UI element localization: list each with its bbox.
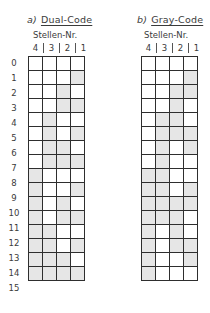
bit-cell-filled (142, 211, 156, 225)
code-row (142, 197, 198, 211)
bit-cell-filled (184, 85, 198, 99)
bit-cell-empty (184, 169, 198, 183)
bit-cell-filled (142, 197, 156, 211)
bit-cell-filled (43, 127, 57, 141)
digit-label: 2 (172, 43, 188, 53)
panel-prefix: a) (27, 14, 37, 25)
bit-cell-filled (142, 225, 156, 239)
code-row (142, 141, 198, 155)
code-row (142, 127, 198, 141)
bit-cell-empty (156, 71, 170, 85)
bit-cell-filled (156, 183, 170, 197)
bit-cell-empty (29, 127, 43, 141)
code-row (142, 183, 198, 197)
bit-cell-filled (170, 197, 184, 211)
bit-cell-empty (71, 113, 85, 127)
bit-cell-filled (71, 239, 85, 253)
dual-code-subtitle: Stellen-Nr. (33, 30, 77, 40)
bit-cell-empty (57, 113, 71, 127)
panel-prefix: b) (137, 14, 147, 25)
gray-code-grid (141, 56, 198, 281)
code-row (29, 225, 85, 239)
bit-cell-filled (43, 113, 57, 127)
digit-label: 2 (59, 43, 75, 53)
bit-cell-empty (57, 169, 71, 183)
bit-cell-empty (43, 85, 57, 99)
bit-cell-filled (57, 267, 71, 281)
bit-cell-filled (57, 85, 71, 99)
bit-cell-filled (43, 141, 57, 155)
bit-cell-empty (142, 85, 156, 99)
code-row (142, 99, 198, 113)
code-row (142, 113, 198, 127)
bit-cell-filled (71, 99, 85, 113)
bit-cell-empty (184, 57, 198, 71)
row-label: 9 (6, 191, 22, 206)
bit-cell-filled (170, 211, 184, 225)
code-row (29, 113, 85, 127)
bit-cell-filled (71, 155, 85, 169)
bit-cell-filled (184, 127, 198, 141)
code-row (29, 57, 85, 71)
dual-code-title: a)Dual-Code (27, 14, 92, 25)
bit-cell-empty (156, 253, 170, 267)
bit-cell-empty (57, 57, 71, 71)
bit-cell-filled (184, 141, 198, 155)
code-row (29, 99, 85, 113)
bit-cell-empty (170, 183, 184, 197)
bit-cell-filled (43, 155, 57, 169)
bit-cell-filled (170, 113, 184, 127)
bit-cell-empty (142, 141, 156, 155)
bit-cell-filled (170, 127, 184, 141)
bit-cell-empty (71, 85, 85, 99)
row-label: 11 (6, 221, 22, 236)
code-row (142, 71, 198, 85)
bit-cell-filled (142, 183, 156, 197)
bit-cell-empty (43, 197, 57, 211)
digit-label: 3 (43, 43, 59, 53)
bit-cell-empty (156, 267, 170, 281)
bit-cell-filled (170, 99, 184, 113)
bit-cell-empty (170, 57, 184, 71)
bit-cell-empty (57, 225, 71, 239)
code-row (142, 239, 198, 253)
code-row (29, 239, 85, 253)
gray-code-digit-header: 4 3 2 1 (141, 43, 204, 53)
bit-cell-empty (156, 225, 170, 239)
code-row (29, 127, 85, 141)
bit-cell-empty (43, 183, 57, 197)
row-label: 7 (6, 161, 22, 176)
bit-cell-empty (71, 169, 85, 183)
bit-cell-filled (156, 197, 170, 211)
bit-cell-empty (57, 127, 71, 141)
code-row (29, 267, 85, 281)
bit-cell-empty (29, 71, 43, 85)
bit-cell-filled (156, 211, 170, 225)
bit-cell-filled (71, 211, 85, 225)
row-labels: 0123456789101112131415 (6, 56, 22, 296)
bit-cell-filled (57, 211, 71, 225)
row-label: 14 (6, 266, 22, 281)
code-row (142, 211, 198, 225)
bit-cell-filled (43, 239, 57, 253)
bit-cell-empty (43, 169, 57, 183)
digit-label: 1 (188, 43, 204, 53)
bit-cell-empty (29, 85, 43, 99)
code-row (142, 155, 198, 169)
bit-cell-filled (184, 197, 198, 211)
bit-cell-empty (71, 253, 85, 267)
bit-cell-filled (71, 267, 85, 281)
bit-cell-filled (156, 141, 170, 155)
row-label: 4 (6, 116, 22, 131)
digit-label: 1 (75, 43, 91, 53)
panel-title: Gray-Code (151, 14, 203, 25)
bit-cell-filled (57, 253, 71, 267)
digit-label: 4 (28, 43, 43, 53)
bit-cell-empty (29, 155, 43, 169)
dual-code-panel: a)Dual-Code Stellen-Nr. 4 3 2 1 01234567… (0, 0, 105, 313)
row-label: 2 (6, 86, 22, 101)
bit-cell-filled (57, 99, 71, 113)
code-row (29, 183, 85, 197)
row-label: 10 (6, 206, 22, 221)
row-label: 13 (6, 251, 22, 266)
